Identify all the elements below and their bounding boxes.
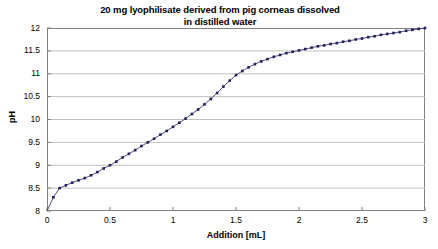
- data-series-group: [47, 27, 426, 211]
- series-marker: [392, 32, 395, 35]
- series-marker: [77, 179, 80, 182]
- series-marker: [96, 171, 99, 174]
- x-axis-tick-label: 3: [408, 216, 438, 225]
- series-marker: [399, 31, 402, 34]
- series-marker: [121, 156, 124, 159]
- series-marker: [165, 130, 168, 133]
- y-axis-tick-label: 12: [0, 24, 40, 33]
- series-marker: [273, 56, 276, 59]
- series-marker: [279, 54, 282, 57]
- series-marker: [147, 141, 150, 144]
- x-axis-title: Addition [mL]: [47, 230, 425, 240]
- series-marker: [235, 74, 238, 77]
- series-marker: [203, 103, 206, 106]
- series-marker: [386, 33, 389, 36]
- series-marker: [411, 29, 414, 32]
- x-axis-tick-label: 0.5: [93, 216, 127, 225]
- x-axis-tick-label: 0: [30, 216, 64, 225]
- series-marker: [367, 36, 370, 39]
- y-axis-title: pH: [7, 97, 17, 137]
- series-marker: [184, 117, 187, 120]
- series-marker: [222, 85, 225, 88]
- series-marker: [197, 108, 200, 111]
- series-marker: [323, 44, 326, 47]
- series-marker: [329, 43, 332, 46]
- y-axis-tick-label: 8: [0, 207, 40, 216]
- series-marker: [52, 196, 55, 199]
- ph-titration-chart: 20 mg lyophilisate derived from pig corn…: [0, 0, 438, 249]
- series-marker: [354, 38, 357, 41]
- series-marker: [109, 164, 112, 167]
- y-axis-tick-label: 11.5: [0, 46, 40, 55]
- series-marker: [304, 48, 307, 51]
- x-axis-tick-label: 1: [156, 216, 190, 225]
- series-marker: [71, 181, 74, 184]
- series-marker: [424, 27, 427, 30]
- series-marker: [65, 184, 68, 187]
- series-marker: [210, 98, 213, 101]
- series-marker: [140, 145, 143, 148]
- series-marker: [361, 37, 364, 40]
- series-marker: [58, 187, 61, 190]
- series-marker: [285, 52, 288, 55]
- series-marker: [254, 63, 257, 66]
- x-axis-tick-label: 1.5: [219, 216, 253, 225]
- series-marker: [247, 66, 250, 69]
- series-marker: [310, 46, 313, 49]
- series-marker: [298, 49, 301, 52]
- series-marker: [153, 137, 156, 140]
- series-marker: [159, 133, 162, 136]
- series-marker: [102, 167, 105, 170]
- series-marker: [348, 40, 351, 43]
- series-marker: [241, 70, 244, 73]
- series-marker: [266, 58, 269, 61]
- series-marker: [191, 113, 194, 116]
- y-axis-tick-label: 10: [0, 115, 40, 124]
- y-axis-tick-label: 10.5: [0, 92, 40, 101]
- chart-canvas: [0, 0, 438, 249]
- series-marker: [417, 28, 420, 31]
- series-marker: [172, 126, 175, 129]
- series-marker: [128, 153, 131, 156]
- series-marker: [228, 79, 231, 82]
- x-axis-tick-label: 2: [282, 216, 316, 225]
- series-marker: [373, 35, 376, 38]
- y-axis-tick-label: 9: [0, 161, 40, 170]
- y-axis-tick-label: 8.5: [0, 184, 40, 193]
- y-axis-tick-label: 9.5: [0, 138, 40, 147]
- series-marker: [405, 29, 408, 32]
- series-marker: [336, 42, 339, 45]
- x-axis-tick-label: 2.5: [345, 216, 379, 225]
- series-marker: [317, 45, 320, 48]
- series-marker: [380, 34, 383, 37]
- series-marker: [115, 160, 118, 163]
- series-marker: [342, 40, 345, 43]
- series-marker: [84, 177, 87, 180]
- series-marker: [90, 174, 93, 177]
- series-marker: [216, 92, 219, 95]
- series-marker: [134, 149, 137, 152]
- series-marker: [291, 50, 294, 53]
- series-marker: [260, 60, 263, 63]
- y-axis-tick-label: 11: [0, 69, 40, 78]
- series-marker: [178, 121, 181, 124]
